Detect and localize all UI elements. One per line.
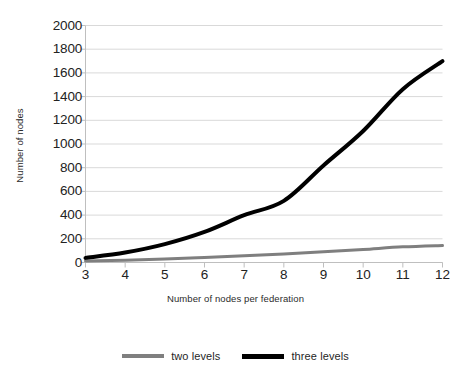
x-tick-label: 6 xyxy=(188,268,222,282)
legend-swatch-icon-three-levels xyxy=(242,354,284,359)
y-tick-label: 0 xyxy=(38,256,82,270)
y-tick-label: 1200 xyxy=(38,113,82,127)
x-tick-label: 10 xyxy=(346,268,380,282)
x-tick-label: 12 xyxy=(426,268,460,282)
x-tick-label: 8 xyxy=(267,268,301,282)
chart-legend: two levels three levels xyxy=(0,343,471,369)
x-tick-marks-group xyxy=(86,263,443,268)
series-line-two-levels xyxy=(86,245,443,261)
x-tick-label: 9 xyxy=(307,268,341,282)
y-tick-label: 200 xyxy=(38,232,82,246)
y-tick-label: 1800 xyxy=(38,42,82,56)
legend-item-three-levels[interactable]: three levels xyxy=(242,350,348,362)
chart-figure: 0200400600800100012001400160018002000 34… xyxy=(0,0,471,376)
x-tick-label: 11 xyxy=(386,268,420,282)
y-tick-marks-group xyxy=(82,26,86,263)
x-tick-label: 4 xyxy=(108,268,142,282)
series-line-three-levels xyxy=(86,61,443,258)
x-tick-label: 3 xyxy=(69,268,103,282)
y-tick-label: 1600 xyxy=(38,66,82,80)
gridlines-group xyxy=(86,26,443,263)
x-axis-title: Number of nodes per federation xyxy=(0,293,471,304)
y-tick-label: 800 xyxy=(38,161,82,175)
legend-swatch-icon-two-levels xyxy=(122,354,164,358)
y-tick-label: 2000 xyxy=(38,19,82,33)
x-tick-label: 7 xyxy=(227,268,261,282)
legend-label-three-levels: three levels xyxy=(291,350,348,362)
legend-label-two-levels: two levels xyxy=(171,350,220,362)
y-tick-label: 600 xyxy=(38,184,82,198)
y-tick-label: 1400 xyxy=(38,90,82,104)
legend-item-two-levels[interactable]: two levels xyxy=(122,350,220,362)
series-group xyxy=(86,61,443,261)
y-tick-label: 1000 xyxy=(38,137,82,151)
y-tick-label: 400 xyxy=(38,208,82,222)
x-axis-tick-labels: 3456789101112 xyxy=(0,268,471,288)
y-axis-title: Number of nodes xyxy=(14,86,25,206)
x-tick-label: 5 xyxy=(148,268,182,282)
